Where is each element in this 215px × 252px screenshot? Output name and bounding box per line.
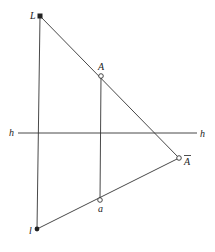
line-L-l [37, 16, 40, 229]
diagram-canvas: h h L A A a l [0, 0, 215, 252]
line-L-Abar [40, 16, 179, 158]
point-L-label: L [29, 10, 36, 21]
point-Abar-label: A [183, 156, 191, 167]
axis-h-label-right: h [200, 128, 205, 139]
point-A-label: A [97, 61, 105, 72]
point-A-marker [99, 74, 104, 79]
axis-h-label-left: h [9, 127, 14, 138]
point-l-label: l [29, 225, 32, 236]
point-a-marker [98, 198, 103, 203]
line-l-Abar [37, 158, 179, 229]
point-a-label: a [98, 203, 103, 214]
line-A-a [100, 76, 101, 200]
point-L-marker [38, 14, 43, 19]
point-l-marker [35, 227, 40, 232]
point-Abar-marker [177, 156, 182, 161]
